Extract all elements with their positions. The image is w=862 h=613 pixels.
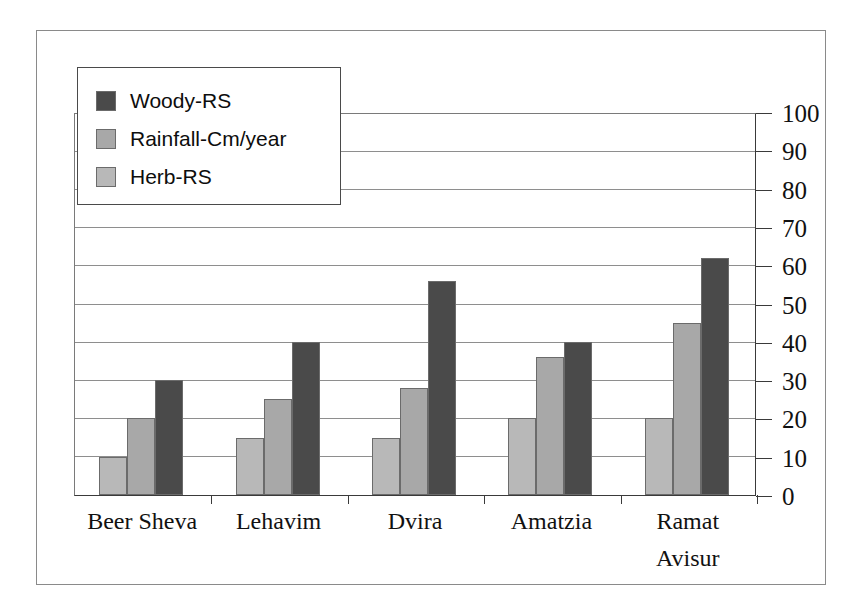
- legend-item[interactable]: Rainfall-Cm/year: [96, 120, 340, 158]
- bar[interactable]: [564, 342, 592, 495]
- y-axis-tick: [756, 113, 772, 114]
- chart-frame: 1009080706050403020100 Beer ShevaLehavim…: [36, 30, 826, 585]
- y-axis-tick: [756, 419, 772, 420]
- y-axis-tick-label: 90: [782, 139, 807, 164]
- x-axis-category-label: Lehavim: [210, 503, 346, 540]
- y-axis-tick-label: 0: [782, 484, 795, 509]
- y-axis-tick-label: 50: [782, 292, 807, 317]
- legend-label: Rainfall-Cm/year: [130, 127, 286, 151]
- x-axis-category-label-line: Lehavim: [210, 503, 346, 540]
- y-axis-tick: [756, 305, 772, 306]
- bar-group: [645, 114, 729, 495]
- legend-swatch-icon: [96, 91, 116, 111]
- bar-group: [508, 114, 592, 495]
- bar[interactable]: [155, 380, 183, 495]
- y-axis-tick: [756, 228, 772, 229]
- y-axis: 1009080706050403020100: [756, 113, 856, 496]
- legend-label: Woody-RS: [130, 89, 231, 113]
- x-axis-category-label: Beer Sheva: [74, 503, 210, 540]
- y-axis-tick-label: 30: [782, 369, 807, 394]
- y-axis-tick: [756, 381, 772, 382]
- bar[interactable]: [264, 399, 292, 495]
- legend-item[interactable]: Herb-RS: [96, 158, 340, 196]
- bar[interactable]: [127, 418, 155, 495]
- y-axis-tick: [756, 343, 772, 344]
- y-axis-tick-label: 70: [782, 215, 807, 240]
- x-axis-category-label-line: Amatzia: [483, 503, 619, 540]
- bar[interactable]: [236, 438, 264, 495]
- bar[interactable]: [673, 323, 701, 495]
- y-axis-tick-label: 20: [782, 407, 807, 432]
- legend-label: Herb-RS: [130, 165, 212, 189]
- bar[interactable]: [400, 388, 428, 495]
- y-axis-tick-label: 80: [782, 177, 807, 202]
- bar[interactable]: [428, 281, 456, 495]
- x-axis-category-label-line: Ramat: [620, 503, 756, 540]
- x-axis-category-label-line: Dvira: [347, 503, 483, 540]
- legend-item[interactable]: Woody-RS: [96, 82, 340, 120]
- bar[interactable]: [536, 357, 564, 495]
- x-axis-category-label: Dvira: [347, 503, 483, 540]
- y-axis-tick: [756, 266, 772, 267]
- x-axis-category-label-line: Beer Sheva: [74, 503, 210, 540]
- bar[interactable]: [701, 258, 729, 495]
- y-axis-tick-label: 40: [782, 330, 807, 355]
- y-axis-tick-label: 10: [782, 445, 807, 470]
- y-axis-tick: [756, 190, 772, 191]
- bar[interactable]: [372, 438, 400, 495]
- bar[interactable]: [508, 418, 536, 495]
- bar[interactable]: [99, 457, 127, 495]
- x-axis-category-labels: Beer ShevaLehavimDviraAmatziaRamatAvisur: [74, 503, 756, 603]
- y-axis-tick: [756, 458, 772, 459]
- legend-swatch-icon: [96, 129, 116, 149]
- x-axis-category-label: Amatzia: [483, 503, 619, 540]
- x-axis-category-label: RamatAvisur: [620, 503, 756, 577]
- y-axis-tick-label: 60: [782, 254, 807, 279]
- legend-swatch-icon: [96, 167, 116, 187]
- bar[interactable]: [645, 418, 673, 495]
- x-axis-category-label-line: Avisur: [620, 540, 756, 577]
- bar-group: [372, 114, 456, 495]
- chart-legend: Woody-RSRainfall-Cm/yearHerb-RS: [77, 67, 341, 205]
- y-axis-tick: [756, 496, 772, 497]
- y-axis-tick-label: 100: [782, 101, 820, 126]
- y-axis-tick: [756, 151, 772, 152]
- bar[interactable]: [292, 342, 320, 495]
